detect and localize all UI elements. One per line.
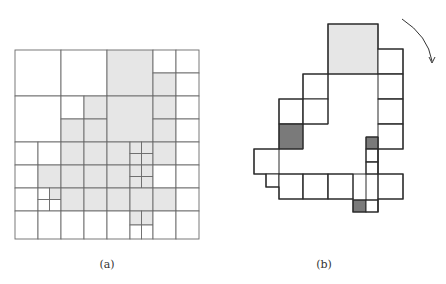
cell-white: [15, 50, 61, 96]
cell-white: [279, 174, 303, 199]
cell-dark: [279, 124, 303, 149]
cell-light: [153, 142, 176, 165]
diagram-canvas: [0, 0, 446, 284]
cell-white: [15, 211, 38, 239]
cell-light: [84, 165, 107, 188]
cell-light: [38, 165, 61, 188]
cell-light: [142, 211, 154, 225]
cell-white: [61, 50, 107, 96]
cell-white: [84, 211, 107, 239]
cell-white: [266, 174, 279, 187]
cell-light: [153, 96, 176, 119]
cell-white: [130, 225, 142, 239]
cell-white: [176, 73, 199, 96]
cell-white: [176, 165, 199, 188]
cell-light: [130, 142, 142, 154]
cell-light: [153, 73, 176, 96]
region-outline-figure-b: [254, 24, 403, 212]
cell-white: [153, 211, 176, 239]
cell-light: [142, 142, 154, 154]
cell-white: [366, 162, 378, 174]
cell-dark: [353, 200, 366, 212]
cell-white: [38, 142, 61, 165]
cell-white: [328, 174, 353, 199]
cell-white: [378, 49, 403, 74]
cell-white: [279, 99, 303, 124]
cell-light: [130, 188, 153, 211]
cell-white: [38, 188, 50, 200]
quadtree-figure-a: [15, 50, 199, 239]
cell-light: [61, 165, 84, 188]
cell-light: [50, 188, 62, 200]
cell-white: [107, 211, 130, 239]
cell-white: [378, 99, 403, 124]
cell-white: [176, 211, 199, 239]
cell-light: [142, 154, 154, 166]
cell-white: [15, 96, 61, 142]
cell-white: [38, 200, 50, 212]
cell-white: [176, 119, 199, 142]
cell-light: [84, 188, 107, 211]
cell-light: [153, 119, 176, 142]
cell-dark: [366, 137, 378, 149]
cell-white: [378, 174, 403, 199]
cell-white: [366, 200, 378, 212]
cell-white: [50, 200, 62, 212]
cell-light: [84, 119, 107, 142]
cell-white: [153, 165, 176, 188]
cell-white: [176, 50, 199, 73]
cell-light: [107, 142, 130, 165]
cell-white: [303, 74, 328, 99]
cell-white: [254, 149, 279, 174]
cell-white: [142, 225, 154, 239]
cell-light: [107, 50, 153, 96]
cell-white: [378, 124, 403, 149]
cell-light: [153, 188, 176, 211]
cell-light: [107, 165, 130, 188]
cell-white: [15, 165, 38, 188]
rotation-arrow-icon: [402, 19, 435, 63]
cell-light: [107, 96, 153, 142]
cell-white: [15, 142, 38, 165]
cell-white: [176, 142, 199, 165]
cell-light: [142, 165, 154, 177]
cell-light: [61, 119, 84, 142]
cell-edge: [353, 174, 366, 200]
arrow-curve: [402, 19, 432, 61]
cell-white: [303, 174, 328, 199]
cell-white: [303, 99, 328, 124]
cell-light: [130, 165, 142, 177]
cell-light: [328, 24, 378, 74]
cell-white: [378, 74, 403, 99]
cell-light: [142, 177, 154, 189]
cell-white: [15, 188, 38, 211]
cell-light: [130, 154, 142, 166]
cell-light: [84, 96, 107, 119]
cell-white: [61, 96, 84, 119]
cell-white: [366, 149, 378, 162]
caption-b: (b): [316, 258, 332, 271]
cell-white: [176, 96, 199, 119]
cell-white: [153, 50, 176, 73]
cell-light: [61, 142, 84, 165]
cell-light: [61, 188, 84, 211]
cell-white: [61, 211, 84, 239]
cell-white: [176, 188, 199, 211]
cell-white: [38, 211, 61, 239]
cell-light: [107, 188, 130, 211]
cell-light: [130, 177, 142, 189]
cell-light: [84, 142, 107, 165]
cell-light: [130, 211, 142, 225]
caption-a: (a): [99, 258, 114, 271]
